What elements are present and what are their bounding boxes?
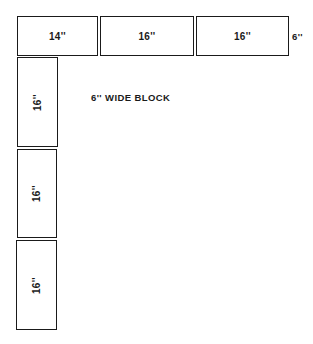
block-height-label: 6'' [292,31,303,42]
block-length-label: 14'' [49,31,66,42]
block-length-label: 16'' [234,31,251,42]
block-length-label: 16'' [32,93,43,110]
block-length-label: 16'' [32,185,43,202]
block-length-label: 16'' [138,31,155,42]
block-vertical-2: 16'' [17,149,57,238]
block-length-label: 16'' [31,276,42,293]
block-horizontal-1: 14'' [17,16,98,56]
block-vertical-1: 16'' [17,57,58,147]
block-horizontal-2: 16'' [100,16,194,56]
block-vertical-3: 16'' [16,240,57,330]
diagram-title: 6'' WIDE BLOCK [91,92,170,103]
block-horizontal-3: 16'' [196,16,289,56]
